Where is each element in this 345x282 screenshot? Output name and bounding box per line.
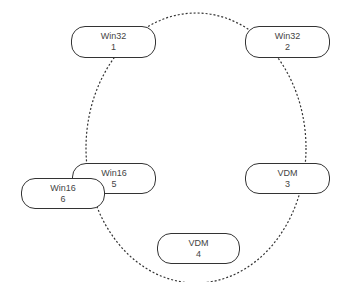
node-label: VDM (189, 238, 209, 249)
node-1: Win32 1 (71, 26, 156, 58)
node-3: VDM 3 (245, 163, 330, 194)
node-6: Win16 6 (21, 178, 105, 209)
node-label: Win32 (275, 31, 301, 42)
node-number: 2 (285, 42, 290, 53)
node-label: Win16 (101, 168, 127, 179)
node-4: VDM 4 (157, 233, 240, 264)
node-number: 1 (111, 42, 116, 53)
node-label: Win16 (50, 183, 76, 194)
node-number: 6 (60, 194, 65, 205)
node-label: Win32 (101, 31, 127, 42)
node-number: 4 (196, 249, 201, 260)
node-2: Win32 2 (245, 26, 330, 58)
node-number: 3 (285, 179, 290, 190)
node-label: VDM (278, 168, 298, 179)
node-number: 5 (111, 179, 116, 190)
